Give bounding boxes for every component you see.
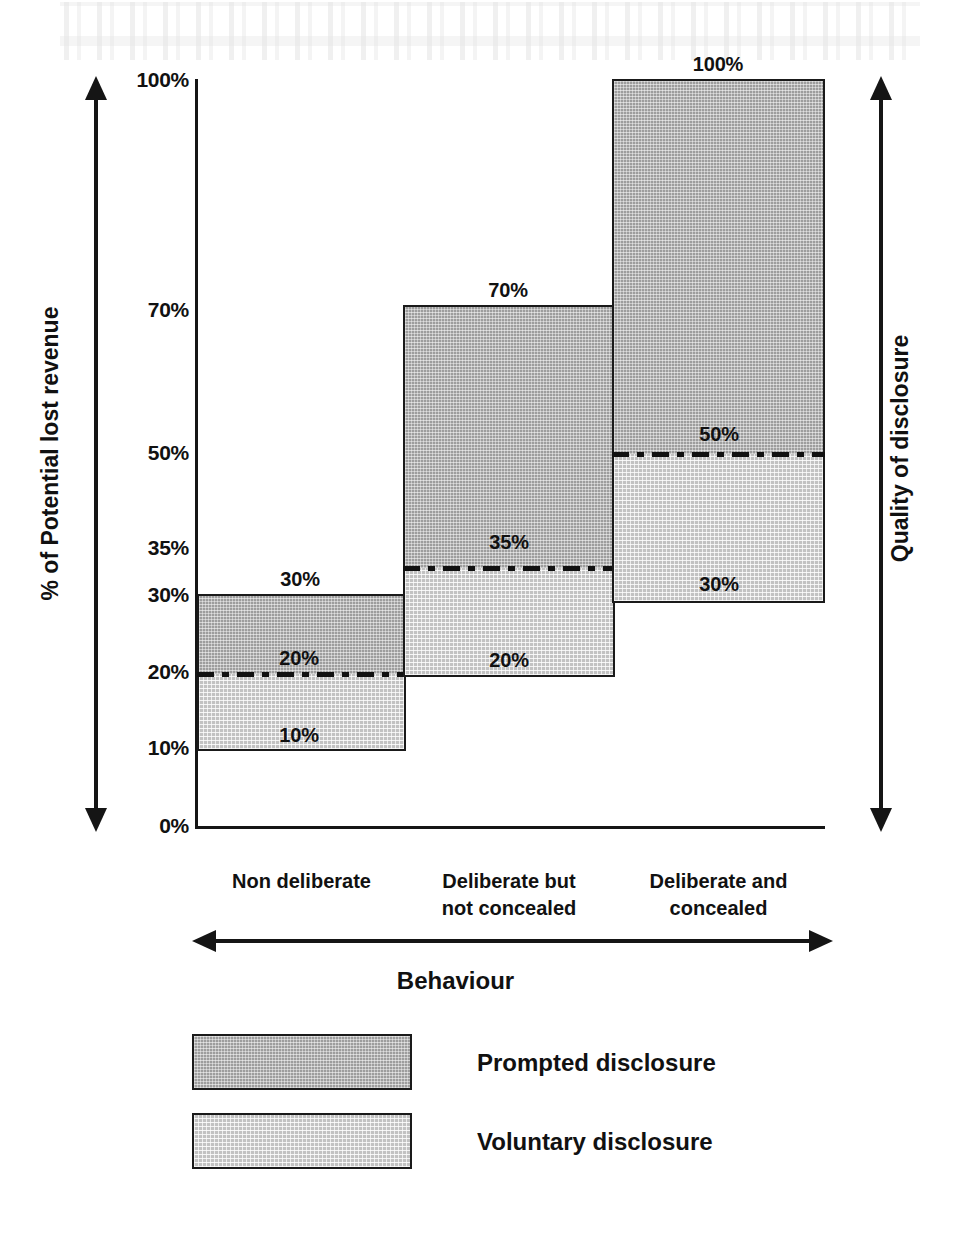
bar-bottom-label-2: 20% [489, 649, 528, 672]
bar-top-label-1: 30% [280, 568, 319, 591]
bar-segment-prompted [614, 81, 823, 454]
legend-swatch-voluntary [192, 1113, 412, 1169]
category-line-1: Non deliberate [197, 868, 406, 895]
category-line-1: Deliberate and [612, 868, 825, 895]
category-line-1: Deliberate but [403, 868, 615, 895]
x-axis-title: Behaviour [0, 967, 966, 995]
bar-deliberate-not-concealed[interactable] [403, 305, 615, 677]
bar-divider-label-2: 35% [489, 531, 528, 554]
bar-deliberate-and-concealed[interactable] [612, 79, 825, 603]
x-axis-title-text: Behaviour [397, 967, 514, 995]
category-line-2: concealed [612, 895, 825, 922]
bar-divider-label-1: 20% [279, 647, 318, 670]
bar-divider-line [612, 452, 825, 457]
bar-bottom-label-3: 30% [699, 573, 738, 596]
category-label-deliberate-not-concealed: Deliberate but not concealed [403, 868, 615, 922]
category-label-non-deliberate: Non deliberate [197, 868, 406, 895]
bar-segment-prompted [405, 307, 613, 568]
bar-divider-label-3: 50% [699, 423, 738, 446]
legend-label-voluntary: Voluntary disclosure [477, 1128, 713, 1156]
bar-bottom-label-1: 10% [279, 724, 318, 747]
legend-label-prompted: Prompted disclosure [477, 1049, 716, 1077]
x-axis-line [195, 826, 825, 829]
bar-top-label-3: 100% [693, 53, 743, 76]
bar-divider-line [197, 672, 406, 677]
category-line-2: not concealed [403, 895, 615, 922]
y-axis-title-right: Quality of disclosure [887, 249, 914, 649]
chart-figure: % of Potential lost revenue 100% 70% 50%… [0, 0, 966, 1238]
bar-top-label-2: 70% [488, 279, 527, 302]
bar-divider-line [403, 566, 615, 571]
y-axis-tick-labels: 100% 70% 50% 35% 30% 20% 10% 0% [0, 0, 195, 1238]
category-label-deliberate-and-concealed: Deliberate and concealed [612, 868, 825, 922]
legend-swatch-prompted [192, 1034, 412, 1090]
x-axis-direction-arrow [190, 924, 835, 958]
